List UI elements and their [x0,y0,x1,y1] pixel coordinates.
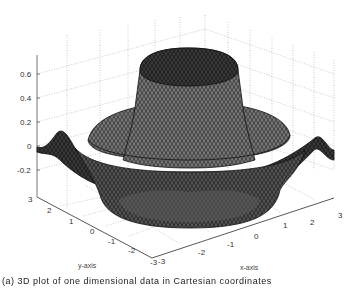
z-tick: -0.2 [17,166,31,175]
y-tick: -1 [108,237,116,246]
y-tick: -2 [128,246,136,255]
x-axis-label: x-axis [240,264,259,271]
x-tick: -2 [198,248,206,257]
y-tick: 0 [90,227,95,236]
figure-caption: (a) 3D plot of one dimensional data in C… [2,276,272,286]
y-tick: 3 [28,195,33,204]
z-tick: 0.6 [20,70,32,79]
x-tick: 0 [254,232,259,241]
x-tick: 2 [310,218,315,227]
x-tick: -1 [227,240,235,249]
x-tick: 3 [338,211,343,220]
y-tick: 1 [69,217,74,226]
z-tick: 0 [27,142,32,151]
surface-mesh [37,48,334,228]
x-tick: -3 [158,257,166,266]
x-tick: 1 [283,221,288,230]
y-axis-label: y-axis [78,262,97,270]
y-tick: -3 [150,258,158,267]
z-tick: 0.2 [20,118,32,127]
y-tick: 2 [47,206,52,215]
z-tick: 0.4 [20,94,32,103]
surface-plot: 0.6 0.4 0.2 0 -0.2 3 2 1 0 -1 -2 -3 y-ax… [0,0,362,288]
z-axis: 0.6 0.4 0.2 0 -0.2 [17,55,40,197]
